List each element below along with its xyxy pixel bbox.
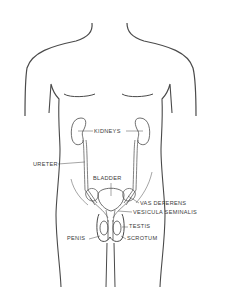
right-vas-loop <box>123 188 136 201</box>
label-bladder: BLADDER <box>93 175 122 181</box>
left-kidney <box>71 118 85 145</box>
label-testis: TESTIS <box>129 223 150 229</box>
right-torso-outline <box>160 84 172 287</box>
right-ureter <box>126 140 138 205</box>
body-outline-drawing <box>0 0 226 301</box>
ureter-leader <box>58 162 85 164</box>
label-penis: PENIS <box>67 235 85 241</box>
inner-legs <box>106 243 115 287</box>
anatomy-diagram: KIDNEYS URETER BLADDER VAS DEFERENS VESI… <box>0 0 226 301</box>
label-kidneys: KIDNEYS <box>94 128 121 134</box>
left-ureter <box>83 140 95 205</box>
right-kidney <box>135 118 149 145</box>
right-pelvic-arc <box>136 172 152 203</box>
right-shoulder-outline <box>127 23 196 116</box>
right-testis <box>113 221 121 235</box>
label-ureter: URETER <box>33 161 58 167</box>
label-vesicula-seminalis: VESICULA SEMINALIS <box>133 209 197 215</box>
left-testis <box>100 221 108 235</box>
left-chest-line <box>64 94 95 97</box>
label-vas-deferens: VAS DEFERENS <box>140 200 186 206</box>
left-torso-outline <box>49 84 61 287</box>
scrotum-outline <box>97 214 124 241</box>
left-vas-loop <box>86 188 99 201</box>
left-pelvic-arc <box>71 179 88 205</box>
vesicula-leader <box>118 211 132 212</box>
right-chest-line <box>122 94 153 97</box>
label-scrotum: SCROTUM <box>127 235 157 241</box>
